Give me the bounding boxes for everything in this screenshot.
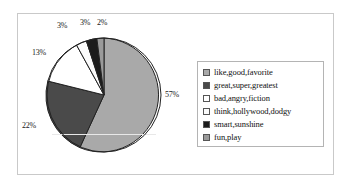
legend-swatch-icon	[203, 121, 210, 128]
legend-label: great,super,greatest	[214, 81, 278, 90]
legend-item-like-good-favorite[interactable]: like,good,favorite	[203, 66, 323, 79]
legend-swatch-icon	[203, 134, 210, 141]
pie-label-3-b: 3%	[80, 19, 90, 27]
legend-item-fun-play[interactable]: fun,play	[203, 131, 323, 144]
pie-label-57: 57%	[165, 91, 179, 99]
legend-label: fun,play	[214, 133, 241, 142]
legend-item-think-hollywood-dodgy[interactable]: think,hollywood,dodgy	[203, 105, 323, 118]
pie-label-22: 22%	[22, 122, 36, 130]
legend-swatch-icon	[203, 108, 210, 115]
legend-label: think,hollywood,dodgy	[214, 107, 291, 116]
legend-label: bad,angry,fiction	[214, 94, 270, 103]
pie-label-2: 2%	[97, 19, 107, 27]
pie-chart	[18, 14, 208, 176]
legend-swatch-icon	[203, 95, 210, 102]
pie-plot-area: 57% 22% 13% 3% 3% 2%	[18, 14, 208, 176]
legend-label: smart,sunshine	[214, 120, 263, 129]
legend-item-smart-sunshine[interactable]: smart,sunshine	[203, 118, 323, 131]
pie-label-3-a: 3%	[57, 22, 67, 30]
chart-frame: 57% 22% 13% 3% 3% 2% like,good,favorite …	[17, 13, 334, 175]
legend-swatch-icon	[203, 69, 210, 76]
legend-swatch-icon	[203, 82, 210, 89]
legend-item-bad-angry-fiction[interactable]: bad,angry,fiction	[203, 92, 323, 105]
pie-label-13: 13%	[32, 49, 46, 57]
chart-legend: like,good,favorite great,super,greatest …	[197, 61, 324, 147]
legend-item-great-super-greatest[interactable]: great,super,greatest	[203, 79, 323, 92]
legend-label: like,good,favorite	[214, 68, 273, 77]
